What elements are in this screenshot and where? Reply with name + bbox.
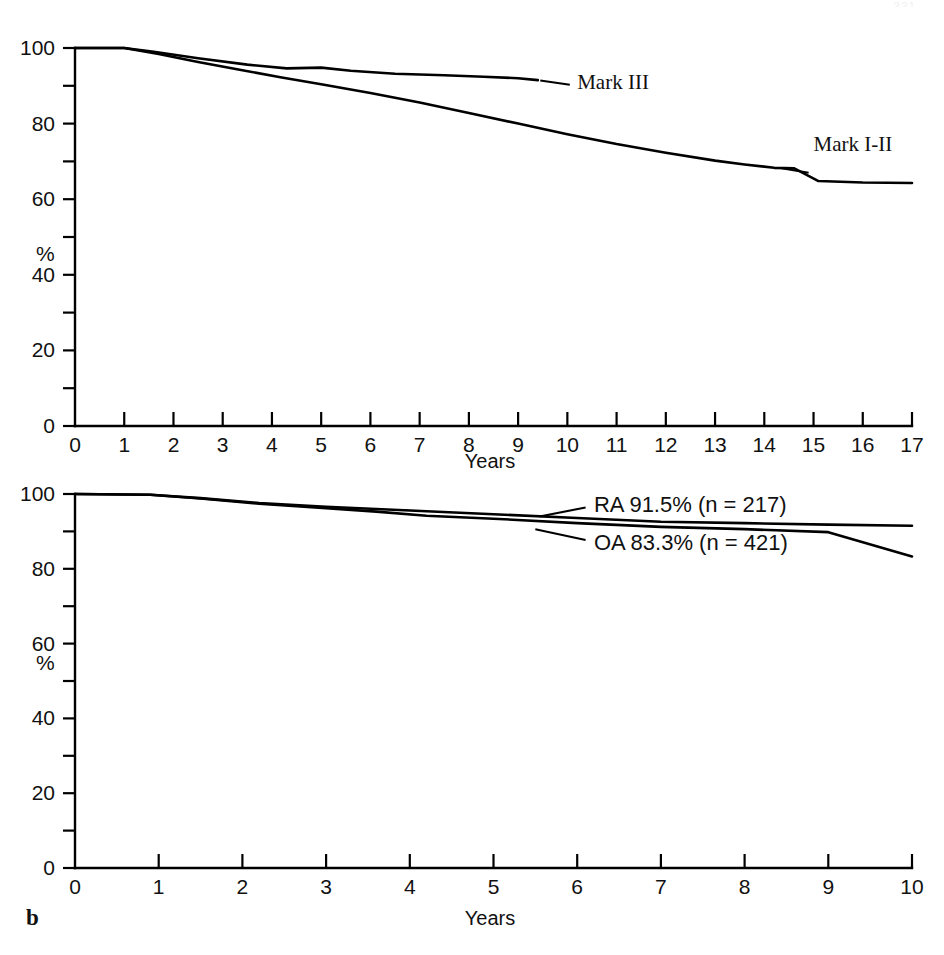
x-axis-title-b: Years	[465, 907, 515, 929]
annotation-group-a: Mark IIIMark I-II	[577, 70, 892, 156]
y-tick-label: 20	[32, 781, 55, 804]
data-curve-mark-i-ii	[75, 48, 912, 183]
y-tick-label: 100	[20, 36, 55, 59]
line-chart-b: 020406080100 012345678910 % Years b RA 9…	[0, 470, 944, 930]
line-chart-a: 020406080100 01234567891011121314151617 …	[0, 22, 944, 472]
x-tick-group-a	[124, 412, 912, 426]
y-tick-label: 80	[32, 557, 55, 580]
leader-line	[540, 507, 586, 516]
x-tick-label: 1	[153, 875, 165, 898]
x-tick-label: 13	[703, 433, 726, 456]
leader-line	[535, 529, 585, 540]
x-tick-label: 5	[315, 433, 327, 456]
y-tick-label: 40	[32, 263, 55, 286]
x-tick-label: 2	[237, 875, 249, 898]
x-tick-label: 2	[168, 433, 180, 456]
x-tick-label: 0	[69, 433, 81, 456]
x-tick-label: 0	[69, 875, 81, 898]
y-axis-title-b: %	[36, 651, 55, 674]
x-tick-label: 7	[414, 433, 426, 456]
series-annotation: RA 91.5% (n = 217)	[594, 492, 787, 517]
x-tick-label: 8	[739, 875, 751, 898]
y-tick-label-group-a: 020406080100	[20, 36, 55, 437]
leader-line-group-a	[540, 81, 808, 173]
x-tick-label: 4	[404, 875, 416, 898]
x-tick-label: 16	[851, 433, 874, 456]
x-tick-label: 6	[365, 433, 377, 456]
x-tick-label: 6	[571, 875, 583, 898]
x-tick-label: 9	[822, 875, 834, 898]
x-tick-label: 3	[217, 433, 229, 456]
y-tick-label: 60	[32, 187, 55, 210]
y-tick-label: 80	[32, 112, 55, 135]
y-tick-group-b	[63, 494, 75, 868]
x-tick-label: 4	[266, 433, 278, 456]
series-annotation: OA 83.3% (n = 421)	[594, 530, 788, 555]
chart-panel-a: 020406080100 01234567891011121314151617 …	[0, 22, 944, 472]
x-axis-title-a: Years	[465, 450, 515, 472]
x-tick-label: 5	[488, 875, 500, 898]
caption-strip	[0, 931, 944, 955]
x-tick-label: 10	[900, 875, 923, 898]
figure-container: 020406080100 01234567891011121314151617 …	[0, 0, 944, 955]
x-tick-label: 1	[118, 433, 130, 456]
x-tick-label: 11	[606, 433, 628, 456]
x-tick-label: 10	[556, 433, 579, 456]
y-tick-label: 20	[32, 338, 55, 361]
series-annotation: Mark I-II	[814, 132, 893, 156]
leader-line	[540, 81, 570, 85]
x-tick-label-group-b: 012345678910	[69, 875, 924, 898]
y-tick-label: 100	[20, 482, 55, 505]
x-tick-label: 17	[900, 433, 923, 456]
chart-panel-b: 020406080100 012345678910 % Years b RA 9…	[0, 470, 944, 930]
y-tick-label-group-b: 020406080100	[20, 482, 55, 879]
data-curve-group-a	[75, 48, 912, 183]
x-tick-label: 3	[320, 875, 332, 898]
x-tick-label: 14	[753, 433, 777, 456]
y-tick-label: 40	[32, 706, 55, 729]
series-annotation: Mark III	[577, 70, 649, 94]
panel-letter-b: b	[26, 905, 39, 930]
y-tick-label: 0	[43, 856, 55, 879]
y-tick-label: 0	[43, 414, 55, 437]
x-tick-label: 12	[654, 433, 677, 456]
y-axis-title-a: %	[36, 242, 55, 265]
y-tick-group-a	[63, 48, 75, 426]
x-tick-label: 15	[802, 433, 825, 456]
x-tick-group-b	[159, 854, 912, 868]
x-tick-label: 7	[655, 875, 667, 898]
